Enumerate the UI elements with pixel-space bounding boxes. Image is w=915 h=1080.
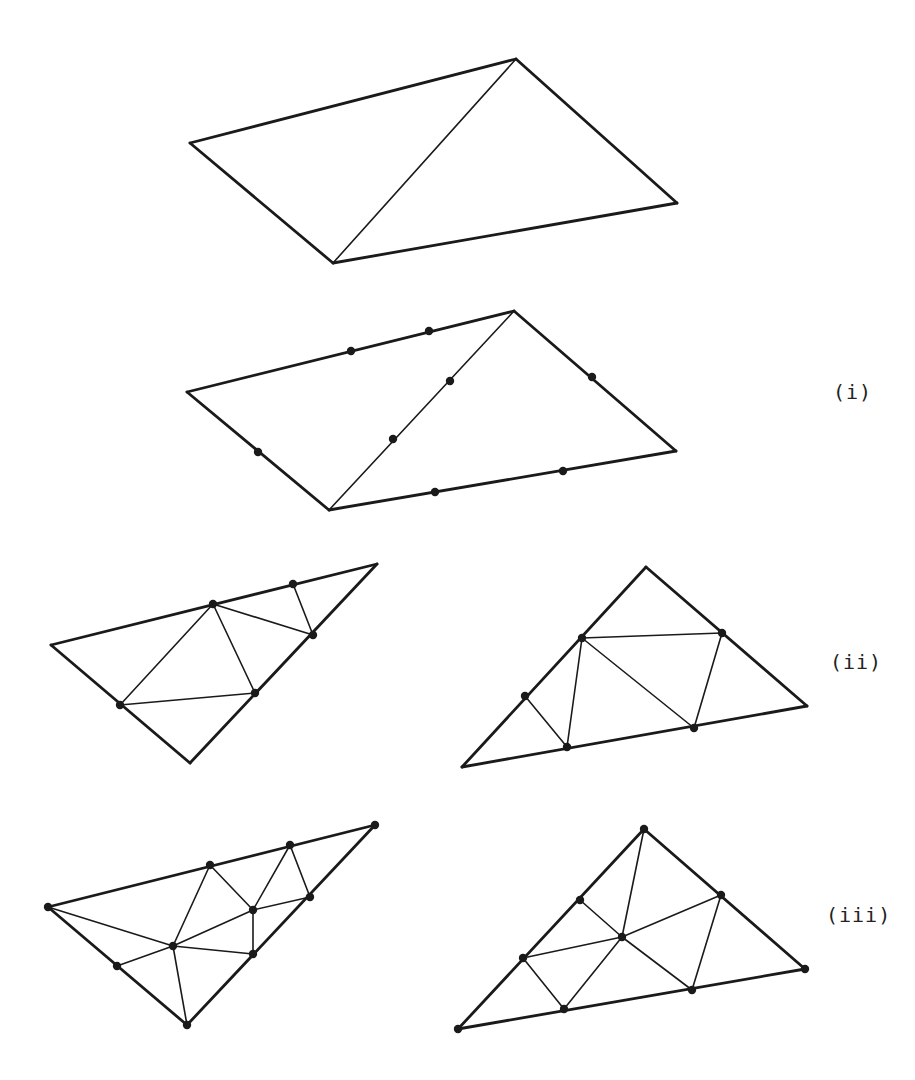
interior-edge: [333, 59, 516, 263]
boundary-edge: [514, 311, 676, 451]
boundary-edge: [333, 203, 677, 263]
interior-edge: [580, 900, 622, 937]
interior-edge: [173, 865, 210, 946]
mesh-node: [454, 1025, 462, 1033]
mesh-node: [251, 689, 259, 697]
boundary-edge: [187, 825, 375, 1025]
interior-edge: [329, 311, 514, 510]
interior-edge: [525, 696, 567, 747]
mesh-node: [563, 743, 571, 751]
boundary-edge: [190, 59, 516, 143]
interior-edge: [213, 604, 313, 635]
mesh-node: [559, 467, 567, 475]
mesh-node: [249, 906, 257, 914]
panel-stage-iii-left: [44, 821, 379, 1029]
boundary-edge: [458, 969, 805, 1029]
mesh-node: [116, 701, 124, 709]
stage-label-ii: (ii): [830, 650, 882, 674]
boundary-edge: [329, 451, 676, 510]
panel-stage-i: [187, 311, 676, 510]
boundary-edge: [644, 829, 805, 969]
mesh-node: [618, 933, 626, 941]
mesh-node: [801, 965, 809, 973]
mesh-node: [306, 893, 314, 901]
boundary-edge: [462, 706, 807, 767]
mesh-node: [717, 891, 725, 899]
interior-edge: [173, 910, 253, 946]
mesh-node: [519, 954, 527, 962]
mesh-node: [431, 488, 439, 496]
mesh-refinement-diagram: [0, 0, 915, 1080]
interior-edge: [523, 958, 564, 1009]
mesh-node: [347, 347, 355, 355]
mesh-node: [521, 692, 529, 700]
interior-edge: [48, 907, 173, 946]
mesh-node: [289, 580, 297, 588]
interior-edge: [622, 895, 721, 937]
mesh-node: [113, 962, 121, 970]
mesh-node: [309, 631, 317, 639]
mesh-node: [578, 634, 586, 642]
panel-stage-ii-left: [51, 564, 377, 763]
interior-edge: [582, 633, 722, 638]
stage-label-i: (i): [833, 380, 872, 404]
panel-base-mesh: [190, 59, 677, 263]
interior-edge: [692, 895, 721, 990]
mesh-node: [690, 724, 698, 732]
interior-edge: [622, 937, 692, 990]
panel-stage-iii-right: [454, 825, 809, 1033]
mesh-node: [576, 896, 584, 904]
mesh-node: [209, 600, 217, 608]
boundary-edge: [516, 59, 677, 203]
mesh-node: [560, 1005, 568, 1013]
mesh-node: [169, 942, 177, 950]
interior-edge: [567, 638, 582, 747]
mesh-node: [389, 435, 397, 443]
interior-edge: [582, 638, 694, 728]
mesh-node: [206, 861, 214, 869]
mesh-node: [446, 377, 454, 385]
interior-edge: [213, 604, 255, 693]
interior-edge: [117, 946, 173, 966]
interior-edge: [293, 584, 313, 635]
interior-edge: [173, 946, 253, 954]
boundary-edge: [646, 567, 807, 706]
mesh-node: [371, 821, 379, 829]
mesh-node: [286, 841, 294, 849]
mesh-node: [718, 629, 726, 637]
interior-edge: [210, 865, 253, 910]
interior-edge: [120, 604, 213, 705]
mesh-node: [249, 950, 257, 958]
panel-stage-ii-right: [462, 567, 807, 767]
mesh-node: [44, 903, 52, 911]
interior-edge: [120, 693, 255, 705]
interior-edge: [622, 829, 644, 937]
mesh-node: [588, 373, 596, 381]
mesh-node: [640, 825, 648, 833]
boundary-edge: [190, 564, 377, 763]
interior-edge: [290, 845, 310, 897]
mesh-node: [688, 986, 696, 994]
interior-edge: [694, 633, 722, 728]
boundary-edge: [190, 143, 333, 263]
mesh-node: [183, 1021, 191, 1029]
mesh-node: [425, 327, 433, 335]
mesh-node: [254, 448, 262, 456]
boundary-edge: [458, 829, 644, 1029]
stage-label-iii: (iii): [826, 903, 891, 927]
